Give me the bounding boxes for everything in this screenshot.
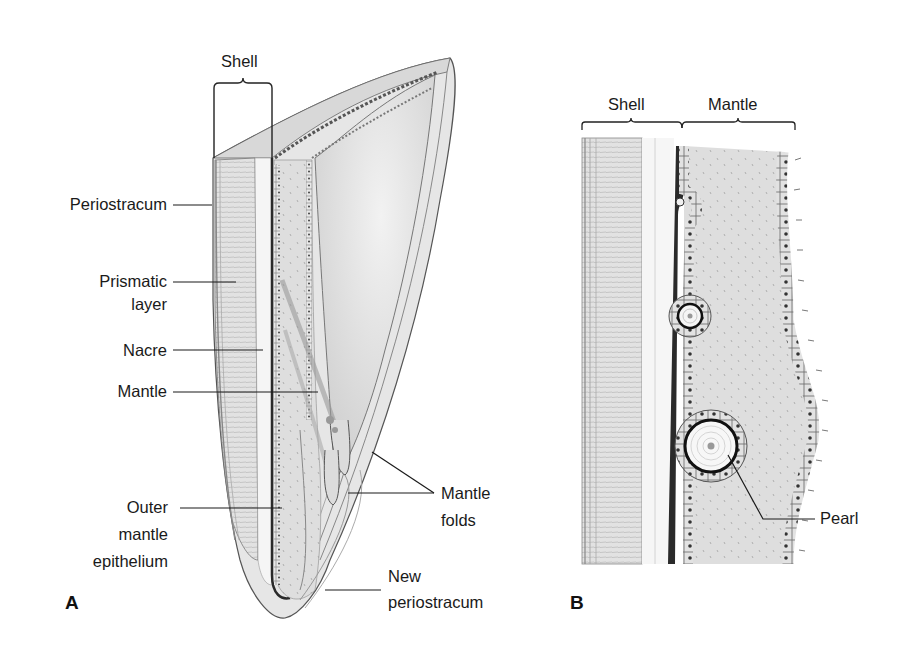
outer-mantle-epithelium-label-line1: Outer bbox=[40, 496, 168, 519]
outer-mantle-epithelium-label-line3: epithelium bbox=[40, 550, 168, 573]
mantle-folds-label-line1: Mantle bbox=[441, 482, 491, 505]
panel-b-brackets bbox=[582, 118, 795, 130]
tiny-pearl bbox=[676, 198, 684, 206]
new-periostracum-label-line1: New bbox=[388, 565, 421, 588]
new-periostracum-label-line2: periostracum bbox=[388, 591, 483, 614]
mantle-bracket-b bbox=[682, 118, 795, 130]
shell-label-b: Shell bbox=[608, 93, 645, 116]
panel-b-letter: B bbox=[570, 592, 584, 614]
mollusc-shell-pearl-figure: Shell Periostracum Prismatic layer Nacre… bbox=[0, 0, 921, 670]
panel-a-letter: A bbox=[65, 592, 79, 614]
mantle-label-a: Mantle bbox=[40, 380, 167, 403]
prismatic-layer bbox=[215, 158, 258, 560]
nacre-label: Nacre bbox=[40, 339, 167, 362]
nacre-layer bbox=[255, 158, 272, 585]
panel-a-drawing bbox=[213, 58, 455, 618]
panel-b-drawing bbox=[582, 138, 828, 564]
mantle-folds-label-line2: folds bbox=[441, 509, 476, 532]
shell-section-b bbox=[582, 138, 642, 564]
prismatic-layer-label-line1: Prismatic bbox=[40, 270, 167, 293]
prismatic-layer-label-line2: layer bbox=[40, 293, 167, 316]
outer-mantle-epithelium-label-line2: mantle bbox=[40, 523, 168, 546]
periostracum-label: Periostracum bbox=[40, 193, 167, 216]
shell-bracket-b bbox=[582, 118, 682, 130]
pearl-label: Pearl bbox=[820, 507, 859, 530]
shell-label-a: Shell bbox=[221, 50, 258, 73]
mantle-label-b: Mantle bbox=[708, 93, 758, 116]
